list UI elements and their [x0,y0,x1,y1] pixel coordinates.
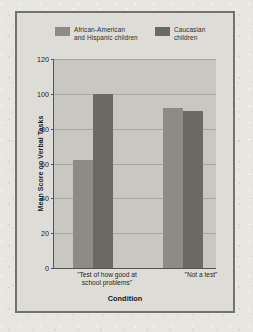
legend-swatch-series-1 [155,27,170,36]
bar-1-0 [163,108,183,268]
chart-legend: African-American and Hispanic children C… [17,23,233,53]
figure-frame: African-American and Hispanic children C… [15,11,235,313]
gridline [54,94,216,95]
legend-label-series-1: Caucasian children [174,26,205,41]
x-axis-title: Condition [17,294,233,303]
y-tick-mark [51,94,54,95]
plot-area: 020406080100120 [53,59,216,269]
y-tick-label: 20 [41,229,49,238]
x-category-label-0: "Test of how good at school problems" [47,271,167,288]
legend-entry-caucasian: Caucasian children [155,26,205,41]
y-tick-label: 120 [37,55,49,64]
x-category-label-1: "Not a test" [167,271,235,279]
legend-entry-african-american-hispanic: African-American and Hispanic children [55,26,138,41]
y-tick-mark [51,268,54,269]
y-tick-label: 60 [41,159,49,168]
bar-1-1 [183,111,203,268]
y-tick-label: 100 [37,89,49,98]
bar-0-1 [93,94,113,268]
legend-label-series-0: African-American and Hispanic children [74,26,138,41]
gridline [54,59,216,60]
legend-swatch-series-0 [55,27,70,36]
y-tick-mark [51,129,54,130]
y-tick-mark [51,233,54,234]
y-tick-mark [51,59,54,60]
y-tick-mark [51,164,54,165]
y-tick-label: 80 [41,124,49,133]
y-tick-label: 40 [41,194,49,203]
y-tick-mark [51,198,54,199]
bar-0-0 [73,160,93,268]
